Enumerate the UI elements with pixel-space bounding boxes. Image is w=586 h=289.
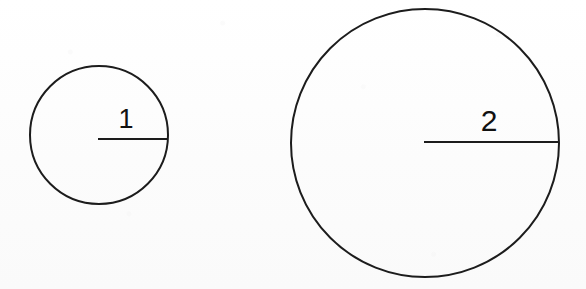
large-circle-radius-label: 2 — [481, 104, 498, 137]
small-circle-group: 1 — [30, 66, 168, 204]
circles-diagram: Two circles with labeled radii 1 2 — [0, 0, 586, 289]
large-circle-group: 2 — [291, 9, 559, 277]
small-circle-outline — [30, 66, 168, 204]
figure-canvas: Two circles with labeled radii 1 2 — [0, 0, 586, 289]
small-circle-radius-label: 1 — [118, 104, 133, 134]
